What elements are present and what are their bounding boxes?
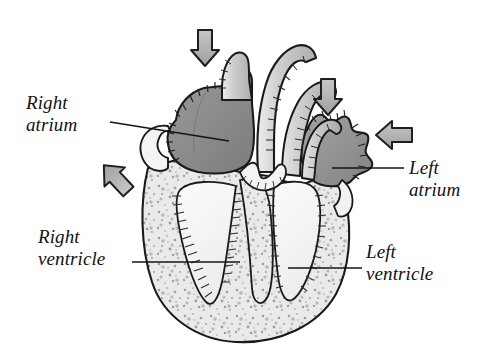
- left-atrium-inflow-arrow: [376, 121, 412, 149]
- label-left-atrium: Left atrium: [409, 157, 460, 202]
- superior-vena-cava-vessel: [219, 53, 252, 100]
- superior-vena-cava-inflow-arrow: [191, 30, 219, 66]
- heart-anatomy-figure: Right atrium Left atrium Right ventricle…: [0, 0, 495, 356]
- inferior-vena-cava-inflow-arrow: [94, 156, 139, 201]
- right-atrium-appendage: [140, 126, 170, 171]
- label-right-atrium: Right atrium: [26, 92, 77, 137]
- label-right-ventricle: Right ventricle: [38, 226, 105, 271]
- label-left-ventricle: Left ventricle: [366, 241, 433, 286]
